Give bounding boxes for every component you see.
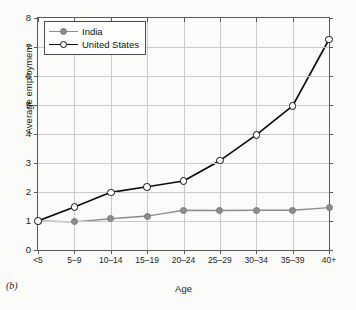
data-point-marker [289, 207, 296, 214]
x-tick-mark [147, 250, 148, 254]
figure-panel-b: 012345678 <55–910–1415–1920–2425–2930–34… [0, 0, 356, 310]
legend[interactable]: India United States [44, 21, 146, 55]
legend-swatch-india [49, 26, 78, 38]
y-tick-mark [329, 76, 333, 77]
data-point-marker [325, 36, 333, 44]
y-axis-title: Average employment [23, 10, 34, 170]
x-tick-mark [293, 250, 294, 254]
y-tick-mark [329, 163, 333, 164]
x-tick-mark [38, 18, 39, 22]
legend-item-united-states[interactable]: United States [49, 38, 139, 51]
x-tick-mark [329, 250, 330, 254]
data-point-marker [180, 207, 187, 214]
x-axis-title: Age [37, 283, 330, 294]
x-tick-mark [147, 18, 148, 22]
y-tick-mark [329, 47, 333, 48]
x-tick-mark [184, 18, 185, 22]
y-tick-label: 2 [1, 187, 31, 197]
data-point-marker [71, 218, 78, 225]
data-point-marker [216, 207, 223, 214]
data-point-marker [144, 213, 151, 220]
x-tick-mark [74, 250, 75, 254]
data-point-marker [107, 189, 115, 197]
x-tick-mark [184, 250, 185, 254]
legend-swatch-united-states [49, 39, 78, 51]
data-point-marker [289, 102, 297, 110]
data-point-marker [216, 157, 224, 165]
x-tick-mark [329, 18, 330, 22]
data-point-marker [180, 177, 188, 185]
x-tick-label: 40+ [301, 256, 356, 265]
data-point-marker [143, 183, 151, 191]
legend-label-united-states: United States [78, 39, 139, 50]
y-tick-mark [329, 105, 333, 106]
x-tick-mark [256, 18, 257, 22]
y-tick-mark [34, 76, 38, 77]
y-tick-mark [329, 134, 333, 135]
y-tick-mark [329, 192, 333, 193]
x-tick-mark [38, 250, 39, 254]
data-point-marker [253, 207, 260, 214]
y-tick-mark [34, 47, 38, 48]
gridline-vertical [184, 18, 185, 250]
panel-caption: (b) [6, 280, 18, 291]
x-tick-mark [220, 250, 221, 254]
y-tick-mark [34, 105, 38, 106]
x-tick-mark [111, 250, 112, 254]
legend-item-india[interactable]: India [49, 25, 139, 38]
gridline-vertical [293, 18, 294, 250]
data-point-marker [253, 131, 261, 139]
y-tick-mark [34, 163, 38, 164]
legend-label-india: India [78, 26, 103, 37]
data-point-marker [71, 203, 79, 211]
y-tick-mark [34, 134, 38, 135]
gridline-vertical [220, 18, 221, 250]
x-tick-mark [293, 18, 294, 22]
y-tick-mark [34, 192, 38, 193]
data-point-marker [326, 204, 333, 211]
y-tick-label: 0 [1, 245, 31, 255]
x-tick-mark [220, 18, 221, 22]
x-tick-mark [256, 250, 257, 254]
y-tick-mark [329, 221, 333, 222]
y-tick-label: 1 [1, 216, 31, 226]
data-point-marker [34, 217, 42, 225]
